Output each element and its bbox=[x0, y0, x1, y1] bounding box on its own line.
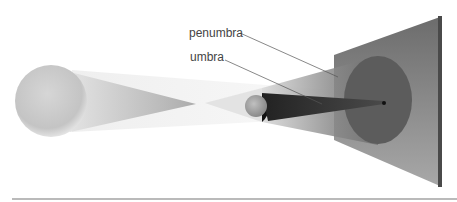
umbra-spot bbox=[382, 101, 386, 105]
penumbra-label: penumbra bbox=[189, 26, 243, 40]
umbra-label: umbra bbox=[190, 50, 224, 64]
light-source-sphere bbox=[15, 65, 87, 137]
screen-edge bbox=[438, 16, 442, 187]
umbra-penumbra-diagram: penumbra umbra bbox=[0, 0, 457, 202]
penumbra-leader-line bbox=[240, 33, 338, 77]
occluding-sphere bbox=[245, 95, 267, 117]
